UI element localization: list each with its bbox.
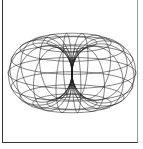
- parallel-line: [47, 37, 97, 49]
- meridian-line: [72, 49, 81, 113]
- horn-torus-wireframe: [0, 0, 143, 149]
- meridian-line: [63, 33, 72, 97]
- parallel-line: [47, 97, 97, 109]
